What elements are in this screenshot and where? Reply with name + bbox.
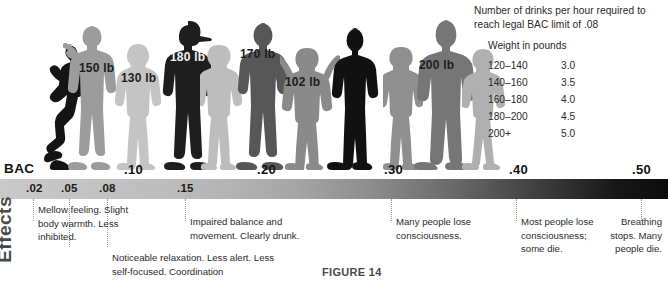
drinks-table-subhead: Weight in pounds (488, 40, 668, 51)
table-row: 140–160 3.5 (488, 77, 668, 94)
callout-mellow-feeling: Mellow feeling. Slight body warmth. Less… (38, 203, 138, 244)
drinks-table-title: Number of drinks per hour required to re… (474, 4, 668, 31)
weight-label-200lb: 200 lb (419, 59, 454, 71)
table-cell-weight: 140–160 (488, 77, 561, 88)
tick-major-20: .20 (257, 163, 276, 176)
tick-minor-08: .08 (99, 183, 116, 195)
table-row: 120–140 3.0 (488, 60, 668, 77)
weight-label-170lb: 170 lb (240, 48, 275, 60)
table-cell-drinks: 3.0 (561, 60, 601, 71)
tick-minor-15: .15 (177, 183, 194, 195)
weight-label-150lb: 150 lb (79, 62, 114, 74)
silhouette-person-2 (63, 22, 121, 170)
tick-major-40: .40 (509, 163, 528, 176)
drinks-table-rows: 120–140 3.0 140–160 3.5 160–180 4.0 180–… (488, 60, 668, 145)
leader-line-15 (185, 199, 187, 221)
silhouette-person-3 (115, 41, 163, 170)
tick-minor-02: .02 (26, 183, 43, 195)
table-row: 200+ 5.0 (488, 128, 668, 145)
table-cell-drinks: 4.0 (561, 94, 601, 105)
callout-most-lose-consciousness: Most people lose consciousness; some die… (521, 215, 610, 256)
tick-major-30: .30 (384, 163, 403, 176)
table-cell-weight: 160–180 (488, 94, 561, 105)
silhouette-person-8 (325, 25, 379, 170)
leader-line-30 (391, 199, 393, 221)
tick-major-50: .50 (632, 163, 651, 176)
table-cell-drinks: 5.0 (561, 128, 601, 139)
table-cell-weight: 120–140 (488, 60, 561, 71)
leader-line-02 (33, 199, 35, 221)
table-cell-drinks: 3.5 (561, 77, 601, 88)
bac-axis-label: BAC (4, 161, 34, 176)
tick-minor-05: .05 (61, 183, 78, 195)
table-row: 180–200 4.5 (488, 111, 668, 128)
callout-noticeable-relaxation: Noticeable relaxation. Less alert. Less … (112, 251, 288, 278)
figure-caption: FIGURE 14 (322, 266, 382, 278)
table-row: 160–180 4.0 (488, 94, 668, 111)
leader-line-40 (516, 199, 518, 221)
weight-label-130lb: 130 lb (121, 72, 156, 84)
table-cell-drinks: 4.5 (561, 111, 601, 122)
table-cell-weight: 180–200 (488, 111, 561, 122)
callout-breathing-stops: Breathing stops. Many people die. (604, 215, 662, 256)
weight-label-102lb: 102 lb (285, 76, 320, 88)
tick-major-10: .10 (124, 163, 143, 176)
bac-figure: 150 lb 130 lb 180 lb (0, 0, 668, 281)
drinks-per-hour-table: Number of drinks per hour required to re… (474, 4, 668, 145)
callout-many-lose-consciousness: Many people lose consciousness. (396, 215, 500, 242)
callout-impaired-balance: Impaired balance and movement. Clearly d… (190, 215, 312, 242)
table-cell-weight: 200+ (488, 128, 561, 139)
effects-side-label: Effects (0, 196, 16, 263)
